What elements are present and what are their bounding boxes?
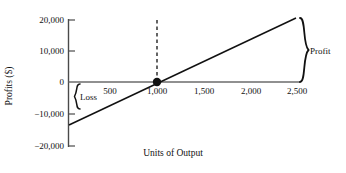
x-tick-label-1000: 1,000 [147, 87, 167, 96]
y-axis-title: Profits ($) [4, 67, 14, 106]
profit-annotation-label: Profit [310, 47, 331, 56]
profit-brace-icon [300, 18, 309, 82]
break-even-chart-figure: 20,000 10,000 0 −10,000 −20,000 500 1,00… [0, 0, 346, 173]
y-tick-label-neg10000: −10,000 [20, 110, 64, 119]
x-axis-title: Units of Output [0, 149, 346, 159]
y-tick-label-0: 0 [20, 78, 64, 87]
x-tick-label-1500: 1,500 [194, 87, 214, 96]
break-even-point-marker [153, 78, 161, 86]
x-tick-label-500: 500 [103, 87, 117, 96]
x-tick-label-2000: 2,000 [241, 87, 261, 96]
y-tick-label-20000: 20,000 [20, 16, 64, 25]
y-tick-label-10000: 10,000 [20, 47, 64, 56]
loss-annotation-label: Loss [80, 93, 97, 102]
x-tick-label-2500: 2,500 [287, 87, 307, 96]
profit-line [69, 18, 296, 125]
